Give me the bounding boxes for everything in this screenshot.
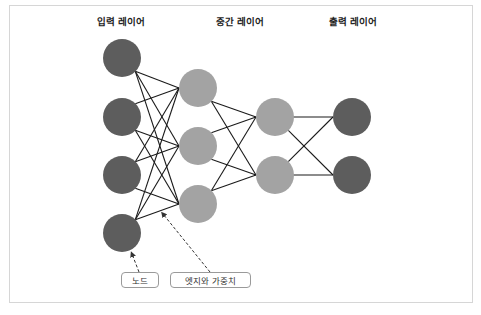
hidden-layer-title: 중간 레이어 <box>216 16 264 27</box>
node-label: 노드 <box>121 272 159 288</box>
input-layer-title: 입력 레이어 <box>97 16 145 27</box>
edge-line <box>211 117 256 191</box>
hidden2-node <box>256 98 294 136</box>
output-layer-title: 출력 레이어 <box>329 16 377 27</box>
hidden1-node <box>179 127 217 165</box>
edge-line <box>135 204 179 220</box>
input-node <box>103 156 141 194</box>
edges-group <box>135 71 333 219</box>
output-node <box>333 156 371 194</box>
edge-line <box>211 101 256 175</box>
edge-line <box>211 175 256 191</box>
edge-line <box>288 130 333 175</box>
edge-annotation-arrow <box>163 214 210 272</box>
edge-weight-label-text: 엣지와 가중치 <box>185 274 236 286</box>
edge-line <box>135 88 179 162</box>
input-node <box>103 214 141 252</box>
hidden1-node <box>179 185 217 223</box>
hidden1-node <box>179 69 217 107</box>
input-node <box>103 39 141 77</box>
output-node <box>333 98 371 136</box>
edge-line <box>288 117 333 162</box>
edge-line <box>135 130 179 146</box>
input-node <box>103 98 141 136</box>
edge-line <box>135 71 179 88</box>
edge-line <box>211 117 256 133</box>
edge-line <box>211 159 256 175</box>
edge-line <box>211 101 256 117</box>
nodes-group <box>103 39 371 252</box>
node-annotation-arrow <box>132 254 139 272</box>
neural-network-diagram: 입력 레이어 중간 레이어 출력 레이어 <box>0 0 481 315</box>
hidden2-node <box>256 156 294 194</box>
edge-line <box>135 130 179 204</box>
edge-weight-label: 엣지와 가중치 <box>170 272 251 288</box>
node-label-text: 노드 <box>132 274 148 286</box>
